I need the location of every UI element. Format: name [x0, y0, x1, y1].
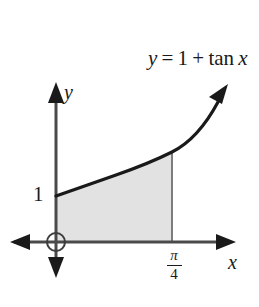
- figure-tan-curve-area: y = 1 + tan x y x 1 π 4: [0, 0, 259, 307]
- x-axis-label: x: [228, 252, 237, 272]
- y-axis-down-arrowhead: [48, 257, 64, 278]
- x-tick-label-pi-over-4: π 4: [161, 248, 187, 283]
- y-axis-label: y: [64, 82, 73, 102]
- fraction-denominator: 4: [161, 267, 187, 283]
- curve-arrowhead: [209, 84, 228, 104]
- fraction-numerator: π: [161, 248, 187, 264]
- equation-function: tan: [208, 46, 234, 70]
- equation-plus: +: [192, 46, 204, 70]
- y-tick-label-1: 1: [33, 184, 44, 205]
- equation-lhs: y: [148, 46, 157, 70]
- x-axis-left-arrowhead: [10, 234, 30, 250]
- equation-label: y = 1 + tan x: [148, 48, 248, 69]
- equation-argument: x: [238, 46, 247, 70]
- y-axis-up-arrowhead: [48, 82, 64, 103]
- x-axis-right-arrowhead: [216, 234, 236, 250]
- shaded-area-under-curve: [56, 152, 172, 242]
- equation-equals: =: [162, 46, 174, 70]
- equation-constant: 1: [178, 46, 189, 70]
